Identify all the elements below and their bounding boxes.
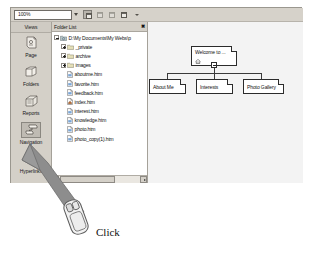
- html-file-icon: [67, 117, 73, 124]
- scrollbar-thumb[interactable]: [60, 176, 115, 183]
- navigation-view-icon: [21, 122, 41, 138]
- toolbar-icon-group: [83, 10, 139, 19]
- folder-list-header: Folder List ✖: [52, 22, 147, 32]
- click-annotation-label: Click: [96, 226, 120, 238]
- sidebar-item-navigation[interactable]: Navigation: [11, 120, 51, 149]
- expander-plus-icon[interactable]: [61, 44, 66, 49]
- refresh-icon[interactable]: [95, 10, 104, 19]
- html-file-icon: [67, 108, 73, 115]
- overflow-chevron-icon[interactable]: [135, 14, 139, 16]
- sidebar-item-hyperlinks[interactable]: Hyperlinks: [11, 149, 51, 178]
- page-corner-fold-icon: [227, 79, 233, 85]
- toolbar: 100%: [11, 8, 303, 22]
- sidebar-item-reports[interactable]: Reports: [11, 91, 51, 120]
- tree-label: photo_copy(1).htm: [75, 136, 114, 142]
- sidebar-item-label: Navigation: [20, 139, 43, 145]
- expander-minus-icon[interactable]: [54, 35, 59, 40]
- mouse-device-icon: [63, 196, 89, 238]
- hyperlinks-view-icon: [21, 151, 41, 167]
- page-corner-fold-icon: [180, 79, 186, 85]
- zoom-combo[interactable]: 100%: [14, 10, 72, 20]
- scroll-left-icon[interactable]: [52, 176, 59, 183]
- tree-row-file[interactable]: index.htm: [52, 97, 147, 106]
- views-bar: Views Page: [11, 22, 52, 183]
- tree-row-folder[interactable]: _private: [52, 42, 147, 51]
- tree-row-file[interactable]: favorite.htm: [52, 79, 147, 88]
- nav-node-about-me[interactable]: About Me: [149, 79, 186, 94]
- folder-icon: [67, 53, 74, 59]
- tree-label: favorite.htm: [75, 81, 99, 87]
- nav-node-label: Interests: [200, 84, 218, 90]
- tree-label: archive: [76, 53, 91, 59]
- sidebar-item-label: Page: [25, 52, 36, 58]
- folder-icon: [67, 62, 74, 68]
- folder-list-title: Folder List: [54, 24, 76, 30]
- home-html-file-icon: [67, 98, 73, 105]
- folder-tree[interactable]: D:\My Documents\My Webs\p _private: [52, 32, 147, 175]
- html-file-icon: [67, 135, 73, 142]
- nav-node-interests[interactable]: Interests: [196, 79, 233, 94]
- tree-label: D:\My Documents\My Webs\p: [69, 35, 131, 41]
- reports-view-icon: [21, 93, 41, 109]
- tree-row-file[interactable]: photo_copy(1).htm: [52, 134, 147, 143]
- collapse-toggle-button[interactable]: [211, 62, 217, 68]
- close-icon[interactable]: ✖: [141, 24, 145, 29]
- tree-label: images: [76, 62, 91, 68]
- navigation-canvas[interactable]: Welcome to ... About Me Interests: [148, 22, 303, 183]
- sidebar-item-label: Reports: [23, 110, 40, 116]
- tree-row-file[interactable]: feedback.htm: [52, 88, 147, 97]
- expander-plus-icon[interactable]: [61, 63, 66, 68]
- tree-row-root[interactable]: D:\My Documents\My Webs\p: [52, 33, 147, 42]
- frontpage-window: 100% V: [10, 7, 302, 183]
- tree-label: interest.htm: [75, 108, 99, 114]
- web-folder-icon: [60, 35, 67, 41]
- zoom-value: 100%: [15, 10, 30, 19]
- tree-label: _private: [76, 44, 93, 50]
- html-file-icon: [67, 71, 73, 78]
- tree-label: knowledge.htm: [75, 117, 107, 123]
- page-corner-fold-icon: [278, 79, 284, 85]
- folder-icon: [67, 44, 74, 50]
- tree-row-file[interactable]: photo.htm: [52, 125, 147, 134]
- tree-label: feedback.htm: [75, 90, 103, 96]
- home-icon: [195, 59, 201, 64]
- html-file-icon: [67, 80, 73, 87]
- html-file-icon: [67, 89, 73, 96]
- html-file-icon: [67, 126, 73, 133]
- folder-list-pane: Folder List ✖ D:\My Documents\My Webs\p: [52, 22, 148, 183]
- expander-plus-icon[interactable]: [61, 53, 66, 58]
- tree-label: photo.htm: [75, 126, 96, 132]
- sidebar-item-label: Folders: [23, 81, 39, 87]
- print-preview-icon[interactable]: [119, 10, 128, 19]
- tree-label: index.htm: [75, 99, 95, 105]
- zoom-fit-icon[interactable]: [107, 10, 116, 19]
- views-title: Views: [11, 22, 51, 33]
- folders-view-icon: [21, 64, 41, 80]
- nav-node-label: Photo Gallery: [247, 84, 276, 90]
- page-corner-fold-icon: [231, 46, 237, 52]
- nav-node-label: About Me: [153, 84, 174, 90]
- screenshot-root: 100% V: [0, 0, 310, 256]
- sidebar-item-folders[interactable]: Folders: [11, 62, 51, 91]
- nav-node-root[interactable]: Welcome to ...: [191, 46, 237, 66]
- tree-label: aboutme.htm: [75, 71, 103, 77]
- tree-row-file[interactable]: aboutme.htm: [52, 70, 147, 79]
- horizontal-scrollbar[interactable]: [52, 175, 147, 183]
- sidebar-item-label: Hyperlinks: [20, 168, 42, 174]
- tree-row-folder[interactable]: images: [52, 61, 147, 70]
- nav-node-label: Welcome to ...: [195, 49, 225, 55]
- scrollbar-track[interactable]: [59, 176, 140, 183]
- page-view-icon: [21, 35, 41, 51]
- tree-row-folder[interactable]: archive: [52, 51, 147, 60]
- sidebar-item-page[interactable]: Page: [11, 33, 51, 62]
- page-preview-icon[interactable]: [83, 10, 92, 19]
- tree-row-file[interactable]: knowledge.htm: [52, 116, 147, 125]
- nav-node-photo-gallery[interactable]: Photo Gallery: [243, 79, 284, 94]
- chevron-down-icon[interactable]: [74, 13, 78, 16]
- tree-row-file[interactable]: interest.htm: [52, 107, 147, 116]
- scroll-right-icon[interactable]: [140, 176, 147, 183]
- window-body: Views Page: [11, 22, 303, 183]
